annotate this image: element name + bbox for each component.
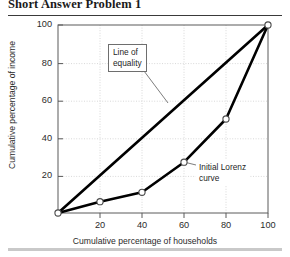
data-point-100 (265, 22, 271, 28)
x-tick-label-60: 60 (171, 220, 197, 230)
chart-page: Short Answer Problem 1 (0, 0, 290, 257)
data-point-80 (223, 116, 229, 122)
equality-leader-line (144, 71, 168, 103)
x-tick-label-20: 20 (87, 220, 113, 230)
y-tick-label-40: 40 (26, 133, 52, 143)
y-tick-label-20: 20 (26, 170, 52, 180)
x-axis-label: Cumulative percentage of households (0, 236, 290, 246)
data-point-20 (97, 199, 103, 205)
y-axis-label: Cumulative percentage of income (7, 51, 17, 169)
data-point-40 (139, 189, 145, 195)
x-tick-label-40: 40 (129, 220, 155, 230)
x-tick-label-80: 80 (213, 220, 239, 230)
annotation-initial-lorenz-curve: Initial Lorenz curve (196, 160, 249, 186)
data-point-0 (55, 210, 61, 216)
annotation-line-of-equality: Line of equality (108, 44, 147, 72)
y-tick-label-100: 100 (26, 19, 52, 29)
y-tick-label-80: 80 (26, 58, 52, 68)
data-point-60 (181, 159, 187, 165)
chart-canvas (0, 0, 290, 257)
y-tick-label-60: 60 (26, 95, 52, 105)
x-tick-label-100: 100 (255, 220, 281, 230)
lorenz-curve-chart: 100 80 60 40 20 20 40 60 80 100 Cumulati… (0, 0, 290, 257)
footer-divider (8, 248, 282, 251)
